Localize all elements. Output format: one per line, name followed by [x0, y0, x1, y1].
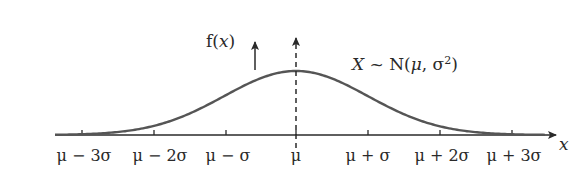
tick-label-plus-2sigma: μ + 2σ [414, 146, 469, 165]
normal-distribution-diagram: f(x) X ~ N(μ, σ2) x μ − 3σ μ − 2σ μ − σ … [0, 0, 585, 179]
tick-label-minus-2sigma: μ − 2σ [132, 146, 187, 165]
x-axis-label: x [559, 134, 569, 154]
distribution-label: X ~ N(μ, σ2) [350, 54, 458, 74]
tick-labels: μ − 3σ μ − 2σ μ − σ μ μ + σ μ + 2σ μ + 3… [56, 146, 541, 165]
tick-label-plus-sigma: μ + σ [346, 146, 391, 165]
tick-label-minus-3sigma: μ − 3σ [56, 146, 111, 165]
tick-label-mu: μ [291, 146, 301, 165]
fx-label: f(x) [206, 31, 235, 51]
tick-label-plus-3sigma: μ + 3σ [486, 146, 541, 165]
tick-label-minus-sigma: μ − σ [206, 146, 251, 165]
normal-curve [55, 71, 545, 135]
